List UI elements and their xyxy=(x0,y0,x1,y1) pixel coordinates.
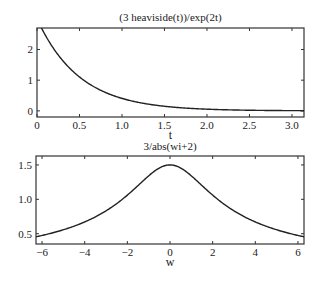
y-tick-label: 0.5 xyxy=(18,228,32,240)
y-tick-label: 2 xyxy=(28,43,34,55)
x-tick-label: 0 xyxy=(167,246,173,258)
y-tick-label: 1.0 xyxy=(18,193,32,205)
x-tick-label: 1.0 xyxy=(115,119,129,131)
x-tick-label: −2 xyxy=(121,246,133,258)
x-tick-label: 6 xyxy=(295,246,301,258)
x-tick-label: 4 xyxy=(253,246,259,258)
y-tick-label: 0 xyxy=(28,105,34,117)
plot-title: 3/abs(wi+2) xyxy=(143,140,197,153)
chart-figure: (3 heaviside(t))/exp(2t)t00.51.01.52.02.… xyxy=(0,0,325,284)
x-tick-label: 0 xyxy=(34,119,40,131)
x-tick-label: 2 xyxy=(210,246,216,258)
x-tick-label: 1.5 xyxy=(158,119,172,131)
axes-frame xyxy=(36,156,304,244)
x-tick-label: 0.5 xyxy=(73,119,87,131)
heaviside-plot: (3 heaviside(t))/exp(2t)t00.51.01.52.02.… xyxy=(28,11,305,142)
x-tick-label: 3.0 xyxy=(285,119,299,131)
x-tick-label: 2.0 xyxy=(200,119,214,131)
data-line xyxy=(37,19,304,111)
x-tick-label: −6 xyxy=(36,246,48,258)
data-line xyxy=(36,165,304,237)
plot-title: (3 heaviside(t))/exp(2t) xyxy=(119,11,222,24)
y-tick-label: 1 xyxy=(28,74,34,86)
y-tick-label: 1.5 xyxy=(18,159,32,171)
x-tick-label: 2.5 xyxy=(243,119,257,131)
x-tick-label: −4 xyxy=(79,246,91,258)
abs-plot: 3/abs(wi+2)w−6−4−202460.51.01.5 xyxy=(18,140,304,269)
axes-frame xyxy=(37,28,304,117)
